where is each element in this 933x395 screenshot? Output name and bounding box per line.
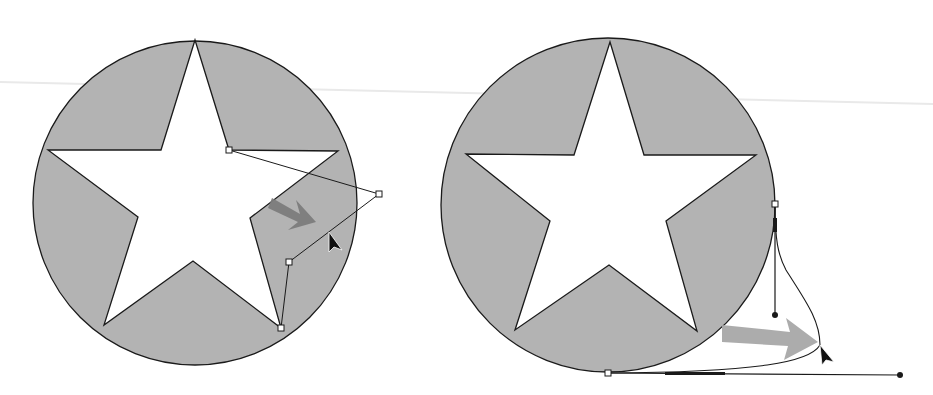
anchor-point[interactable] xyxy=(286,259,292,265)
drag-direction-arrow-icon xyxy=(722,318,818,360)
anchor-point[interactable] xyxy=(772,201,778,207)
pointer-cursor-icon xyxy=(820,345,834,365)
illustration-stage xyxy=(0,0,933,395)
handle-endpoint[interactable] xyxy=(772,312,778,318)
handle-endpoint[interactable] xyxy=(897,372,903,378)
handle-segment xyxy=(665,372,725,375)
vector-edit-illustration xyxy=(0,0,933,395)
before-panel xyxy=(33,40,382,365)
after-panel xyxy=(441,38,903,378)
anchor-point[interactable] xyxy=(278,325,284,331)
anchor-point[interactable] xyxy=(605,370,611,376)
handle-line[interactable] xyxy=(608,373,900,375)
anchor-point[interactable] xyxy=(226,147,232,153)
anchor-point[interactable] xyxy=(376,191,382,197)
